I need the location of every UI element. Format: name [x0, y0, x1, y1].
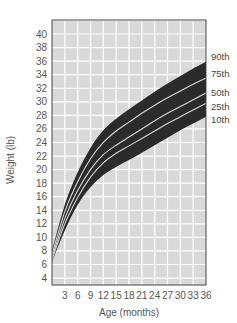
y-tick-label: 30 — [36, 96, 48, 107]
y-tick-label: 38 — [36, 42, 48, 53]
x-tick-label: 6 — [75, 290, 81, 301]
x-tick-label: 12 — [98, 290, 110, 301]
percentile-label-25th: 25th — [211, 101, 230, 112]
y-tick-label: 24 — [36, 137, 48, 148]
percentile-labels: 90th75th50th25th10th — [211, 51, 230, 125]
percentile-label-10th: 10th — [211, 114, 230, 125]
y-tick-label: 40 — [36, 29, 48, 40]
x-tick-label: 36 — [200, 290, 212, 301]
y-tick-label: 26 — [36, 123, 48, 134]
x-axis-ticks: 369121518212427303336 — [62, 290, 212, 301]
x-tick-label: 21 — [136, 290, 148, 301]
x-tick-label: 18 — [123, 290, 135, 301]
y-axis-ticks: 46810121416182022242628303234363840 — [36, 29, 48, 284]
y-tick-label: 16 — [36, 191, 48, 202]
y-axis-title: Weight (lb) — [5, 136, 16, 184]
x-tick-label: 3 — [62, 290, 68, 301]
x-tick-label: 15 — [111, 290, 123, 301]
y-tick-label: 6 — [41, 259, 47, 270]
y-tick-label: 8 — [41, 245, 47, 256]
y-tick-label: 32 — [36, 83, 48, 94]
percentile-label-50th: 50th — [211, 87, 230, 98]
x-tick-label: 24 — [149, 290, 161, 301]
y-tick-label: 12 — [36, 218, 48, 229]
percentile-label-90th: 90th — [211, 51, 230, 62]
y-tick-label: 18 — [36, 178, 48, 189]
y-tick-label: 4 — [41, 273, 47, 284]
y-tick-label: 14 — [36, 205, 48, 216]
x-tick-label: 9 — [88, 290, 94, 301]
x-tick-label: 30 — [175, 290, 187, 301]
y-tick-label: 20 — [36, 164, 48, 175]
growth-chart: 46810121416182022242628303234363840 3691… — [0, 0, 237, 323]
y-tick-label: 10 — [36, 232, 48, 243]
x-tick-label: 27 — [162, 290, 174, 301]
y-tick-label: 28 — [36, 110, 48, 121]
y-tick-label: 22 — [36, 151, 48, 162]
y-tick-label: 36 — [36, 56, 48, 67]
percentile-label-75th: 75th — [211, 68, 230, 79]
x-axis-title: Age (months) — [99, 307, 159, 318]
x-tick-label: 33 — [188, 290, 200, 301]
y-tick-label: 34 — [36, 69, 48, 80]
